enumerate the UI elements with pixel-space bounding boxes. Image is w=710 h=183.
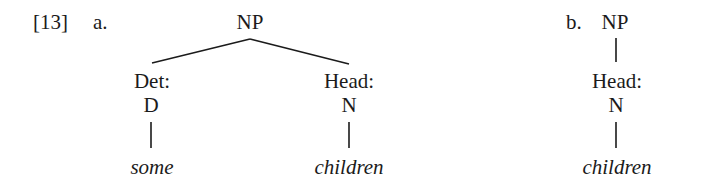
example-number: [13]	[33, 11, 68, 33]
tree-a-label: a.	[93, 11, 108, 33]
tree-a-root-np: NP	[237, 11, 264, 33]
tree-b-head-category: N	[608, 94, 623, 116]
tree-a-head-function: Head:	[324, 70, 374, 92]
tree-b-head-function: Head:	[592, 70, 642, 92]
tree-b-root-np: NP	[602, 11, 629, 33]
tree-b-head-word: children	[582, 156, 651, 178]
tree-a-det-function: Det:	[134, 70, 170, 92]
branch-np-to-det	[152, 39, 250, 63]
branch-np-to-head	[250, 39, 349, 64]
tree-a-head-word: children	[314, 156, 383, 178]
tree-a-det-category: D	[143, 94, 158, 116]
tree-a-head-category: N	[341, 94, 356, 116]
tree-a-det-word: some	[130, 156, 173, 178]
tree-b-label: b.	[566, 11, 582, 33]
